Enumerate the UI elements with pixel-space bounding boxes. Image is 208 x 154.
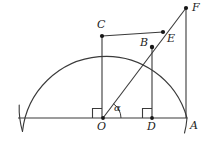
point-dot-e xyxy=(161,30,165,34)
label-point-f: F xyxy=(192,2,200,13)
geometry-figure: F C E B O D A α xyxy=(0,0,208,154)
right-angle-mark-d xyxy=(143,109,153,119)
label-angle-alpha: α xyxy=(114,103,121,113)
label-point-o: O xyxy=(97,121,106,132)
segment-ce xyxy=(102,32,163,36)
label-point-b: B xyxy=(140,37,148,48)
point-dot-c xyxy=(100,34,104,38)
right-angle-mark-o xyxy=(93,109,103,119)
arc-tail-right xyxy=(185,118,188,133)
label-point-a: A xyxy=(190,120,198,131)
label-point-d: D xyxy=(147,121,156,132)
point-dot-b xyxy=(150,45,154,49)
label-point-c: C xyxy=(97,19,105,30)
point-dot-f xyxy=(184,6,188,10)
label-point-e: E xyxy=(167,33,175,44)
